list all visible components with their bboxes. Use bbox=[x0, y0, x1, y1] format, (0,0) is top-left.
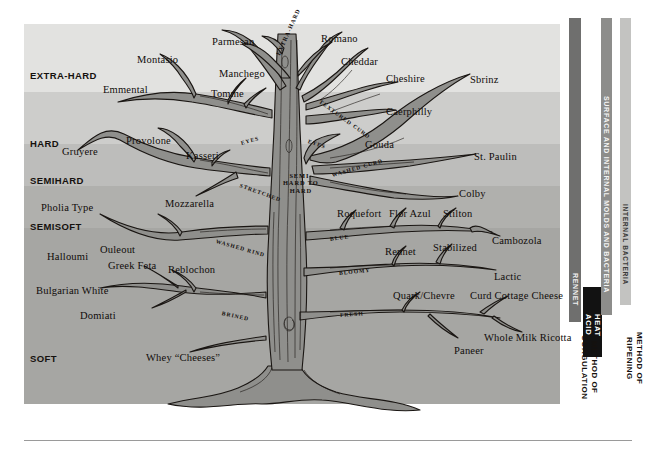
cheese-label-quark-chevre: Quark/Chevre bbox=[393, 290, 455, 301]
axis-bar-label-internal-bacteria: INTERNAL BACTERIA bbox=[622, 204, 629, 285]
axis-title-method-of-coagulation: METHOD OF COAGULATION bbox=[579, 330, 599, 404]
cheese-label-manchego: Manchego bbox=[219, 68, 265, 79]
cheese-label-halloumi: Halloumi bbox=[47, 251, 88, 262]
cheese-label-lactic: Lactic bbox=[494, 271, 521, 282]
cheese-label-provolone: Provolone bbox=[126, 135, 171, 146]
axis-bar-internal-bacteria: INTERNAL BACTERIA bbox=[620, 18, 631, 305]
cheese-label-stilton: Stilton bbox=[443, 208, 472, 219]
cheese-label-gruyere: Gruyere bbox=[62, 146, 98, 157]
cheese-label-whey-cheeses: Whey “Cheeses” bbox=[146, 352, 220, 363]
axis-bar-label-surface-and-internal-molds-and-bacteria: SURFACE AND INTERNAL MOLDS AND BACTERIA bbox=[603, 96, 610, 293]
cheese-label-gouda: Gouda bbox=[365, 139, 394, 150]
axis-bar-rennet: RENNET bbox=[569, 18, 581, 322]
cheese-label-sbrinz: Sbrinz bbox=[470, 74, 499, 85]
band-label-hard: HARD bbox=[30, 138, 59, 149]
branch-label-semi-hard-to-hard: SEMI- HARD TO HARD bbox=[283, 172, 319, 194]
cheese-label-romano: Romano bbox=[321, 33, 358, 44]
cheese-label-domiati: Domiati bbox=[80, 310, 116, 321]
cheese-label-roquefort: Roquefort bbox=[337, 208, 381, 219]
cheese-label-reblochon: Reblochon bbox=[168, 264, 215, 275]
cheese-label-rennet: Rennet bbox=[385, 246, 416, 257]
footer-rule bbox=[24, 440, 632, 441]
cheese-label-flor-azul: Flor Azul bbox=[389, 208, 431, 219]
axis-bar-label-rennet: RENNET bbox=[572, 273, 579, 306]
band-label-soft: SOFT bbox=[30, 353, 57, 364]
cheese-label-ouleout: Ouleout bbox=[100, 244, 135, 255]
cheese-label-pholia-type: Pholia Type bbox=[41, 202, 93, 213]
cheese-label-colby: Colby bbox=[459, 188, 486, 199]
cheese-label-mozzarella: Mozzarella bbox=[165, 198, 214, 209]
axis-bar-surface-and-internal-molds-and-bacteria: SURFACE AND INTERNAL MOLDS AND BACTERIA bbox=[601, 18, 612, 315]
cheese-label-greek-feta: Greek Feta bbox=[108, 260, 156, 271]
band-label-semisoft: SEMISOFT bbox=[30, 221, 82, 232]
cheese-label-montasio: Montasio bbox=[137, 54, 178, 65]
cheese-label-curd-cottage-cheese: Curd Cottage Cheese bbox=[470, 290, 563, 301]
band-label-extra-hard: EXTRA-HARD bbox=[30, 70, 97, 81]
cheese-label-tomme: Tomme bbox=[211, 88, 244, 99]
axis-title-method-of-ripening: METHOD OF RIPENING bbox=[624, 318, 644, 398]
cheese-label-whole-milk-ricotta: Whole Milk Ricotta bbox=[484, 332, 572, 343]
band-label-semihard: SEMIHARD bbox=[30, 175, 84, 186]
cheese-label-emmental: Emmental bbox=[103, 84, 148, 95]
hardness-band-hard bbox=[24, 92, 560, 144]
cheese-label-caerphilly: Caerphilly bbox=[386, 106, 432, 117]
cheese-label-st-paulin: St. Paulin bbox=[474, 151, 517, 162]
cheese-label-parmesan: Parmesan bbox=[212, 36, 254, 47]
cheese-label-kasseri: Kasseri bbox=[186, 150, 219, 161]
cheese-label-paneer: Paneer bbox=[454, 345, 484, 356]
cheese-label-stabilized: Stabilized bbox=[433, 242, 477, 253]
cheese-label-bulgarian-white: Bulgarian White bbox=[36, 285, 109, 296]
cheese-family-tree-figure: EXTRA-HARDHARDSEMIHARDSEMISOFTSOFT Parme… bbox=[0, 0, 656, 462]
cheese-label-cheddar: Cheddar bbox=[341, 56, 378, 67]
cheese-label-cambozola: Cambozola bbox=[492, 235, 542, 246]
cheese-label-cheshire: Cheshire bbox=[386, 73, 425, 84]
